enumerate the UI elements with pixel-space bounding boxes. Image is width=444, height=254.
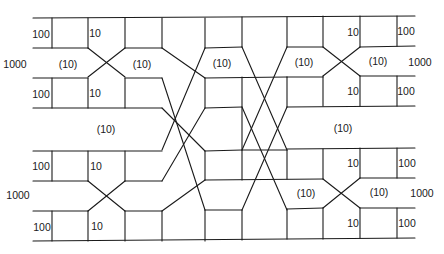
label: (10) bbox=[369, 56, 388, 67]
label: 1000 bbox=[3, 59, 26, 70]
label: 100 bbox=[32, 29, 50, 40]
label: 10 bbox=[91, 221, 103, 232]
label: (10) bbox=[297, 188, 316, 199]
label: 100 bbox=[32, 161, 50, 172]
label: (10) bbox=[334, 123, 353, 134]
label: 10 bbox=[347, 218, 359, 229]
label: 10 bbox=[347, 158, 359, 169]
label: 100 bbox=[397, 26, 415, 37]
label: 10 bbox=[347, 27, 359, 38]
label: 100 bbox=[398, 218, 416, 229]
diagram-canvas: 100 10 1000 (10) (10) (10) (10) 10 100 (… bbox=[0, 0, 444, 254]
label: (10) bbox=[133, 59, 152, 70]
label: (10) bbox=[97, 124, 116, 135]
label: 100 bbox=[33, 222, 51, 233]
network-lines bbox=[0, 0, 444, 254]
label: (10) bbox=[295, 57, 314, 68]
label: 100 bbox=[398, 158, 416, 169]
label: 10 bbox=[89, 28, 101, 39]
label: (10) bbox=[59, 59, 78, 70]
label: 1000 bbox=[408, 57, 431, 68]
label: 100 bbox=[397, 86, 415, 97]
label: (10) bbox=[370, 187, 389, 198]
label: 10 bbox=[89, 88, 101, 99]
label: 1000 bbox=[6, 190, 29, 201]
label: (10) bbox=[213, 58, 232, 69]
label: 1000 bbox=[410, 188, 433, 199]
label: 10 bbox=[347, 86, 359, 97]
label: 100 bbox=[32, 89, 50, 100]
label: 10 bbox=[90, 161, 102, 172]
